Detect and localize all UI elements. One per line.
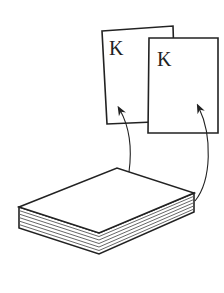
card-right: K [148, 38, 218, 133]
card-deck [19, 168, 194, 254]
card-left-label: K [109, 37, 124, 59]
card-right-label: K [157, 48, 172, 70]
diagram-canvas: K K [0, 0, 224, 293]
